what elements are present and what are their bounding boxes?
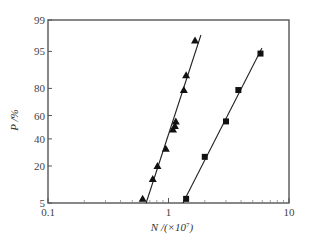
y-tick-label: 95 [34, 45, 46, 57]
x-axis-ticks: 0.1110 [41, 198, 295, 218]
x-axis-title: N /(×107) [150, 221, 194, 234]
y-tick-label: 20 [34, 160, 46, 172]
plot-area-border [48, 20, 289, 203]
y-axis-title: P /% [8, 109, 20, 132]
triangle-marker [153, 162, 161, 169]
triangle-marker [162, 145, 170, 152]
square-marker [202, 154, 208, 160]
y-tick-label: 99 [34, 14, 46, 26]
x-tick-label: 10 [284, 206, 296, 218]
triangle-marker [180, 86, 188, 93]
y-tick-label: 60 [34, 110, 46, 122]
triangle-marker [139, 195, 147, 202]
square-marker [183, 196, 189, 202]
triangle-marker [191, 37, 199, 44]
square-marker [257, 51, 263, 57]
square-marker [223, 118, 229, 124]
triangles-fit-line [146, 35, 201, 203]
triangle-marker [149, 175, 157, 182]
y-tick-label: 80 [34, 82, 46, 94]
squares-fit-line [183, 48, 262, 203]
data-points [139, 37, 264, 202]
square-marker [235, 87, 241, 93]
probability-plot: 5204060809599 0.1110 P /% N /(×107) [0, 0, 312, 245]
y-tick-label: 40 [34, 133, 46, 145]
fit-lines [146, 35, 262, 203]
y-axis-ticks: 5204060809599 [34, 14, 52, 209]
plot-frame [48, 20, 289, 203]
x-tick-label: 1 [166, 206, 172, 218]
x-tick-label: 0.1 [41, 206, 55, 218]
